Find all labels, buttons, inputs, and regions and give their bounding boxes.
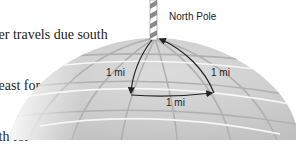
south-leg-label: 1 mi [106,67,125,78]
diagram-figure: ...er travels due south ...east for one … [0,0,296,148]
north-pole-label: North Pole [169,11,216,22]
globe-dome [0,38,296,148]
globe-illustration [0,0,296,148]
east-leg-label: 1 mi [166,97,185,108]
north-pole-marker [150,0,157,40]
north-leg-label: 1 mi [211,67,230,78]
